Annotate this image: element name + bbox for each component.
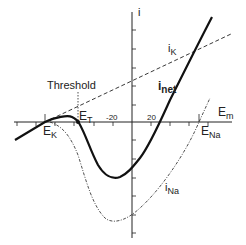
inet-curve xyxy=(15,17,212,178)
ina-curve xyxy=(50,98,210,221)
iv-diagram: i Em -20 20 Threshold EK ET ENa iK inet … xyxy=(0,0,246,245)
ik-curve xyxy=(45,34,231,122)
inet-label: inet xyxy=(158,79,177,95)
threshold-label: Threshold xyxy=(47,79,96,91)
ena-label: ENa xyxy=(201,124,221,140)
y-axis-label: i xyxy=(138,6,140,18)
ik-label: iK xyxy=(168,42,176,57)
et-label: ET xyxy=(79,109,93,125)
tick-label-neg20: -20 xyxy=(106,113,118,122)
ina-label: iNa xyxy=(165,181,179,196)
ek-label: EK xyxy=(43,124,57,140)
x-axis-label: Em xyxy=(218,105,234,121)
y-axis xyxy=(132,12,136,238)
tick-label-20: 20 xyxy=(147,113,156,122)
